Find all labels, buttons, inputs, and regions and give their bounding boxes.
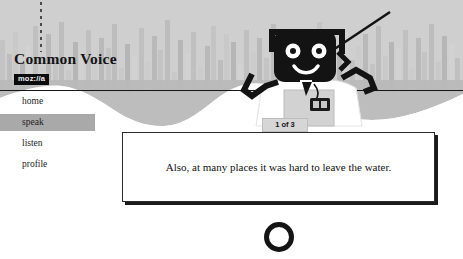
brand-logo[interactable]: Common Voice moz://a [14, 50, 117, 85]
sentence-text: Also, at many places it was hard to leav… [150, 160, 407, 175]
brand-title: Common Voice [14, 50, 117, 67]
nav-item-listen[interactable]: listen [0, 135, 110, 152]
main-navigation: homespeaklistenprofile [0, 93, 110, 177]
nav-item-speak[interactable]: speak [0, 114, 95, 131]
nav-item-label: speak [22, 117, 44, 127]
nav-item-label: home [22, 96, 43, 106]
nav-item-profile[interactable]: profile [0, 156, 110, 173]
progress-indicator: 1 of 3 [262, 118, 308, 132]
nav-item-label: listen [22, 138, 43, 148]
nav-item-label: profile [22, 159, 47, 169]
nav-item-home[interactable]: home [0, 93, 110, 110]
playhead-marker-icon [40, 2, 42, 52]
mozilla-badge: moz://a [14, 74, 49, 85]
common-voice-robot [222, 8, 397, 133]
record-button[interactable] [264, 222, 294, 252]
sentence-card: Also, at many places it was hard to leav… [122, 132, 435, 202]
common-voice-speak-page: Common Voice moz://a homespeaklistenprof… [0, 0, 463, 259]
